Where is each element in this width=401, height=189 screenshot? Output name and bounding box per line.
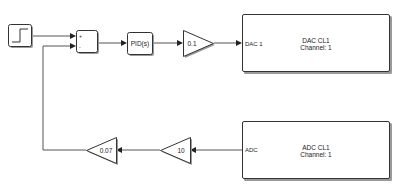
pid-controller-block[interactable]: PID(s): [128, 33, 155, 57]
pid-label: PID(s): [131, 40, 149, 48]
dac-port-label: DAC 1: [245, 41, 263, 47]
gain-forward-block[interactable]: 0.1: [184, 31, 216, 59]
arrow-head-icon: [121, 40, 127, 46]
gain-feedback-10-label: 10: [177, 147, 185, 154]
line-feedback-to-sum[interactable]: [43, 46, 86, 150]
step-block[interactable]: [9, 25, 34, 49]
arrow-head-icon: [177, 40, 183, 46]
adc-subtitle: Channel: 1: [300, 151, 332, 158]
dac-title: DAC CL1: [302, 37, 330, 44]
dac-subtitle: Channel: 1: [300, 44, 332, 51]
arrow-head-icon: [236, 40, 242, 46]
gain-forward-label: 0.1: [187, 40, 196, 47]
adc-block[interactable]: ADC ADC CL1 Channel: 1: [243, 122, 393, 182]
gain-feedback-007-block[interactable]: 0.07: [87, 138, 119, 166]
arrow-head-icon: [70, 33, 76, 39]
adc-port-label: ADC: [245, 147, 258, 153]
adc-title: ADC CL1: [302, 144, 330, 151]
dac-block[interactable]: DAC 1 DAC CL1 Channel: 1: [243, 15, 393, 75]
sum-sign-plus: +: [79, 33, 82, 39]
block-diagram-canvas: + - PID(s) 0.1 DAC 1 DAC CL1 Channel: 1 …: [0, 0, 401, 189]
sum-block[interactable]: + -: [77, 31, 100, 55]
gain-feedback-007-label: 0.07: [100, 147, 113, 154]
gain-feedback-10-block[interactable]: 10: [161, 138, 193, 166]
arrow-head-icon: [70, 43, 76, 49]
